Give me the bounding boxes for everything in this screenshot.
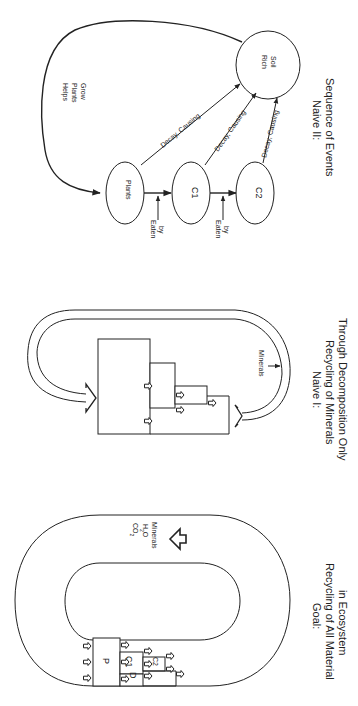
c2-label: C2 (254, 187, 264, 199)
panel-naive-i: Minerals Naive I: Recycling of Minerals … (28, 310, 349, 461)
goal-flow-h2o: H2O (139, 524, 149, 538)
transfer-arrow-icon (84, 675, 92, 682)
panel-goal: P C1 D C2 CO2 H2O Minerals Goal: Recycli… (15, 515, 349, 686)
goal-caption-2: Recycling of All Material (324, 563, 336, 680)
transfer-arrow-icon (177, 671, 185, 678)
decay-label-c1: Decay, Causing (213, 108, 248, 153)
eaten-label-2: Eaten (215, 220, 222, 238)
helps-line-3: Grow (80, 83, 87, 101)
goal-flow-arrow-icon (170, 529, 186, 549)
decay-label-c2: Decay, Causing (260, 109, 280, 158)
panel-naive-ii: Helps Plants Grow Rich Soil Plants C1 C2… (42, 21, 336, 239)
transfer-arrow-icon (84, 643, 92, 650)
by-label-2: by (222, 226, 230, 234)
node-plants (106, 162, 144, 224)
helps-plants-grow-label: Helps Plants Grow (61, 83, 87, 103)
naive-i-caption-2: Recycling of Minerals (324, 340, 336, 445)
goal-flow-co2: CO2 (129, 523, 139, 537)
transfer-arrow-icon (84, 659, 92, 666)
goal-flow-minerals: Minerals (151, 522, 158, 549)
rich-soil-line-2: Soil (270, 56, 277, 68)
helps-line-2: Plants (71, 83, 78, 103)
naive-i-caption-1: Naive I: (311, 371, 323, 408)
helps-line-1: Helps (61, 83, 69, 101)
goal-label-d: D (128, 672, 138, 679)
goal-caption-1: Goal: (311, 603, 323, 629)
by-label-1: by (157, 226, 165, 234)
trophic-box-producers (98, 339, 150, 434)
naive-i-minerals-label: Minerals (258, 350, 265, 377)
goal-label-c2: C2 (152, 657, 159, 666)
naive-i-caption-3: Through Decomposition Only (337, 318, 349, 461)
naive-ii-caption-2: Sequence of Events (324, 78, 336, 177)
loop-arrowhead-left (86, 384, 96, 412)
goal-label-p: P (101, 658, 111, 664)
plants-label: Plants (125, 180, 132, 200)
transfer-arrow-icon (145, 648, 153, 655)
goal-caption-3: in Ecosystem (337, 590, 349, 655)
decay-label-plants: Decay, Causing (159, 112, 202, 150)
c1-label: C1 (190, 187, 200, 199)
transfer-arrow-icon (177, 407, 185, 414)
transfer-arrow-icon (167, 653, 175, 660)
naive-ii-caption-1: Naive II: (311, 100, 323, 140)
transfer-arrow-icon (145, 673, 153, 680)
transfer-arrow-icon (209, 400, 217, 407)
trophic-box-c1 (150, 363, 175, 408)
transfer-arrow-icon (122, 642, 130, 649)
eaten-label-1: Eaten (150, 220, 157, 238)
loop-arrowhead-right (235, 405, 242, 427)
rich-soil-line-1: Rich (261, 55, 268, 69)
goal-inner-loop (65, 563, 240, 640)
ecosystem-recycling-figure: Helps Plants Grow Rich Soil Plants C1 C2… (0, 0, 358, 706)
